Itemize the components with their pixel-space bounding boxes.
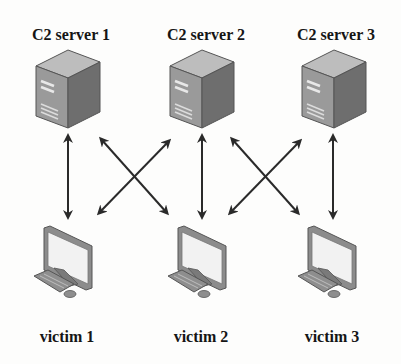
victim-label-2: victim 2 [141,328,261,346]
c2-topology-diagram: C2 server 1 C2 server 2 C2 server 3 [0,0,401,364]
victim-label-1: victim 1 [7,328,127,346]
desktop-computer-icon [294,224,366,300]
desktop-computer-icon [30,224,102,300]
desktop-computer-icon [164,224,236,300]
connection-arrows [0,0,401,364]
victim-label-3: victim 3 [272,328,392,346]
